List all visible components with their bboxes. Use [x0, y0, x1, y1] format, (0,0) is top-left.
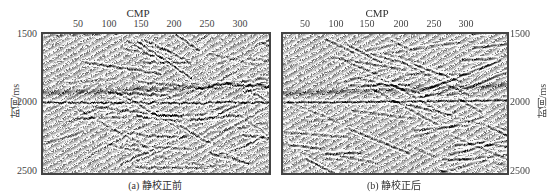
y-tick: 1500 [510, 28, 530, 39]
x-tick: 150 [360, 18, 375, 29]
x-tick: 250 [427, 18, 442, 29]
caption-b: (b) 静校正后 [367, 177, 421, 192]
seismic-section-b [281, 32, 509, 175]
figure: CMP 50 100 150 200 250 300 1500 2000 250… [0, 0, 548, 196]
y-axis-label: 时间/ms [535, 84, 548, 118]
y-tick: 2000 [510, 96, 530, 107]
panel-b: CMP 50 100 150 200 250 300 1500 2000 250… [0, 0, 548, 196]
x-tick: 300 [459, 18, 474, 29]
x-tick: 50 [300, 18, 310, 29]
x-tick: 100 [329, 18, 344, 29]
y-tick: 2500 [510, 165, 530, 176]
x-tick: 200 [394, 18, 409, 29]
